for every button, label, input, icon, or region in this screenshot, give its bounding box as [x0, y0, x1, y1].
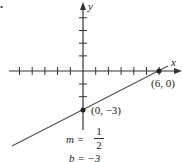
- intercept-label: b = −3: [69, 153, 100, 162]
- graph-line: [12, 66, 168, 146]
- y-axis-arrow-icon: [80, 2, 86, 10]
- slope-label: m =: [66, 134, 84, 145]
- corner-mark: .: [0, 0, 3, 10]
- slope-fraction: 1 2: [94, 126, 104, 151]
- x-intercept-label: (6, 0): [151, 78, 175, 89]
- y-axis-label: y: [88, 1, 93, 12]
- point-y-intercept: [81, 108, 86, 113]
- point-x-intercept: [157, 69, 162, 74]
- x-axis-arrow-icon: [174, 68, 182, 74]
- x-axis-label: x: [171, 57, 176, 68]
- y-intercept-label: (0, −3): [91, 105, 121, 116]
- slope-numerator: 1: [94, 126, 104, 137]
- slope-denominator: 2: [94, 140, 104, 151]
